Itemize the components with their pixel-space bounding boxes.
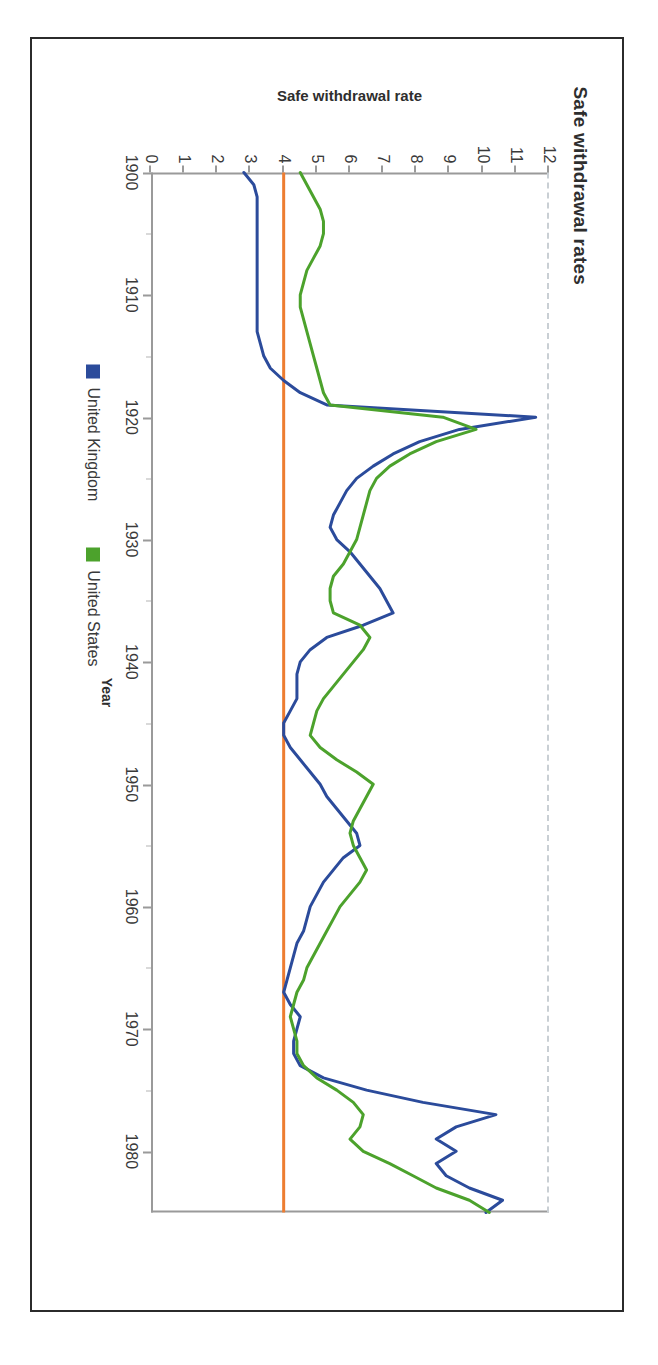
- y-tick-mark: [348, 165, 350, 172]
- series-line-2: [290, 172, 489, 1212]
- y-axis-title-text: Safe withdrawal rate: [277, 87, 422, 104]
- y-tick-label: 2: [208, 154, 226, 163]
- x-tick-mark: [143, 417, 151, 419]
- legend-square-icon: [86, 547, 100, 561]
- x-tick-mark: [143, 539, 151, 541]
- y-tick-mark: [182, 165, 184, 172]
- y-tick-label: 11: [507, 146, 525, 163]
- y-tick-label: 5: [308, 154, 326, 163]
- legend-item-1[interactable]: United Kingdom: [84, 364, 102, 501]
- legend-label: United Kingdom: [84, 387, 102, 501]
- x-tick-mark: [143, 1151, 151, 1153]
- x-tick-mark: [143, 784, 151, 786]
- rotated-chart-container: Safe withdrawal rates Safe withdrawal ra…: [29, 38, 625, 1315]
- y-tick-mark: [414, 165, 416, 172]
- x-tick-label: 1980: [122, 1133, 140, 1169]
- x-tick-label: 1920: [122, 399, 140, 435]
- x-tick-mark: [143, 294, 151, 296]
- x-tick-label: 1930: [122, 521, 140, 557]
- legend-square-icon: [86, 364, 100, 378]
- y-tick-mark: [547, 165, 549, 172]
- y-tick-label: 4: [275, 154, 293, 163]
- series-line-1: [244, 172, 536, 1212]
- y-tick-label: 6: [341, 154, 359, 163]
- y-tick-label: 0: [142, 154, 160, 163]
- y-tick-mark: [481, 165, 483, 172]
- x-tick-mark: [143, 1028, 151, 1030]
- y-tick-mark: [448, 165, 450, 172]
- legend-item-2[interactable]: United States: [84, 547, 102, 666]
- x-tick-mark: [143, 906, 151, 908]
- x-tick-label: 1970: [122, 1011, 140, 1047]
- y-tick-label: 9: [441, 154, 459, 163]
- x-tick-label: 1900: [122, 154, 140, 190]
- x-axis-title: Year: [99, 172, 115, 1212]
- y-tick-mark: [282, 165, 284, 172]
- x-tick-label: 1950: [122, 766, 140, 802]
- y-tick-mark: [149, 165, 151, 172]
- y-tick-mark: [215, 165, 217, 172]
- y-tick-label: 1: [175, 154, 193, 163]
- x-tick-mark: [143, 172, 151, 174]
- x-tick-label: 1960: [122, 888, 140, 924]
- y-tick-mark: [315, 165, 317, 172]
- y-tick-label: 10: [474, 145, 492, 163]
- chart-title: Safe withdrawal rates: [569, 86, 591, 285]
- y-axis-title: Safe withdrawal rate: [151, 82, 549, 108]
- y-tick-label: 12: [540, 145, 558, 163]
- y-tick-mark: [381, 165, 383, 172]
- chart-figure: Safe withdrawal rates Safe withdrawal ra…: [47, 64, 607, 1289]
- chart-legend: United KingdomUnited States: [84, 364, 102, 666]
- legend-label: United States: [84, 570, 102, 666]
- y-tick-label: 7: [374, 154, 392, 163]
- y-tick-mark: [249, 165, 251, 172]
- series-lines: [151, 172, 549, 1212]
- x-tick-mark: [143, 661, 151, 663]
- x-tick-label: 1910: [122, 277, 140, 313]
- y-tick-label: 3: [242, 154, 260, 163]
- plot-area: 0123456789101112 19001910192019301940195…: [151, 172, 549, 1212]
- x-tick-label: 1940: [122, 644, 140, 680]
- y-tick-mark: [514, 165, 516, 172]
- y-tick-label: 8: [407, 154, 425, 163]
